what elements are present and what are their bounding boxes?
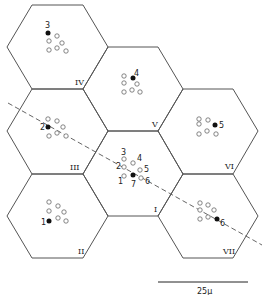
hex-cell-diagram: IV V III VI I II VII 3 4 2 [0,0,263,295]
label-ii: II [78,247,84,256]
label-vi: VI [224,162,234,171]
label-iii: III [70,163,79,172]
center-label-5: 5 [144,165,149,174]
center-label-2: 2 [116,162,121,171]
svg-text:3: 3 [45,21,50,30]
svg-text:5: 5 [219,121,224,130]
center-label-1: 1 [118,177,123,186]
svg-text:1: 1 [41,218,46,227]
svg-text:6: 6 [220,219,225,228]
svg-text:4: 4 [134,69,139,78]
center-label-7: 7 [131,180,136,189]
label-i: I [154,205,157,214]
cluster-cell-vii: 6 [198,201,225,228]
cluster-cell-iv: 3 [45,21,68,53]
cluster-cell-iii: 2 [40,117,68,138]
label-vii: VII [222,247,235,256]
svg-text:2: 2 [40,123,45,132]
center-label-4: 4 [137,154,142,163]
center-label-6: 6 [145,177,150,186]
scale-bar-label: 25μ [197,287,212,295]
cluster-cell-i: 3 4 2 5 1 7 6 [116,148,150,189]
label-v: V [151,120,158,129]
cluster-cell-ii: 1 [41,200,68,227]
cluster-cell-v: 4 [122,69,142,94]
center-label-3: 3 [121,148,126,157]
label-iv: IV [75,78,84,87]
cluster-cell-vi: 5 [197,117,224,136]
